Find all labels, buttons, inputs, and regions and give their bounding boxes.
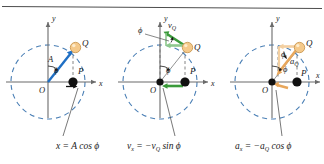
angle-label-at-q: ϕ (138, 25, 143, 35)
ball-q (70, 42, 80, 52)
acceleration-x-at-p (277, 85, 288, 88)
point-p-label: P (77, 66, 84, 76)
panel-displacement: x y O Q P ϕ A x = A cos ϕ (6, 14, 103, 151)
acceleration-vector-label-sub: Q (294, 61, 299, 67)
ball-q-highlight (72, 44, 75, 47)
angle-label-at-origin: ϕ (283, 64, 288, 74)
caption-leader-line (163, 88, 175, 136)
caption-rhs: = −a (242, 141, 265, 151)
ball-q-label: Q (194, 42, 201, 52)
axis-x-label: x (98, 79, 103, 88)
axis-y-label: y (51, 14, 56, 23)
caption-leader-line (276, 90, 282, 136)
caption-rhs: = −v (134, 141, 157, 151)
figure-circular-motion-projection: x y O Q P ϕ A x = A cos ϕ (0, 0, 324, 164)
panel-acceleration: x y O Q P ϕ ϕ aQ ax = −aQ cos ϕ (230, 14, 320, 152)
ball-q-label: Q (306, 38, 313, 48)
axis-x-label: x (315, 71, 320, 80)
caption-tail: sin ϕ (160, 141, 181, 151)
origin-point (268, 78, 275, 85)
displacement-vector-label: A (47, 54, 54, 64)
angle-label: ϕ (54, 65, 59, 75)
axis-x-label: x (210, 79, 215, 88)
panel-velocity: x y O Q P ϕ ϕ vQ vx = −vQ sin ϕ (118, 14, 215, 152)
point-p-label: P (300, 68, 307, 78)
x-axis-arrow (91, 80, 96, 85)
point-p (68, 77, 77, 86)
top-rule (2, 7, 322, 9)
ball-q-highlight (184, 44, 187, 47)
axis-y-label: y (275, 14, 280, 23)
velocity-vector-label-sub: Q (172, 25, 177, 31)
y-axis-arrow (270, 22, 275, 27)
caption-leader-line (63, 88, 78, 136)
point-p (180, 77, 189, 86)
panel-caption: vx = −vQ sin ϕ (127, 141, 181, 152)
point-p-label: P (189, 66, 196, 76)
point-p (292, 77, 301, 86)
angle-label-at-q: ϕ (281, 49, 286, 59)
angle-label-at-origin: ϕ (166, 65, 171, 75)
velocity-vector-label: vQ (168, 20, 177, 31)
ball-q (294, 42, 304, 52)
x-axis-arrow (203, 80, 208, 85)
ball-q-label: Q (82, 38, 89, 48)
panel-caption: ax = −aQ cos ϕ (235, 141, 292, 152)
origin-label: O (150, 85, 156, 95)
origin-label: O (39, 85, 45, 95)
origin-point (156, 78, 163, 85)
y-axis-arrow (158, 22, 163, 27)
ball-q-highlight (296, 44, 299, 47)
y-axis-arrow (46, 22, 51, 27)
x-axis-arrow (315, 80, 320, 85)
panel-caption: x = A cos ϕ (55, 141, 99, 151)
radius-line (160, 48, 187, 82)
origin-label: O (262, 85, 268, 95)
acceleration-vector-label: aQ (290, 56, 299, 67)
ball-q (182, 42, 192, 52)
caption-tail: cos ϕ (269, 141, 291, 151)
